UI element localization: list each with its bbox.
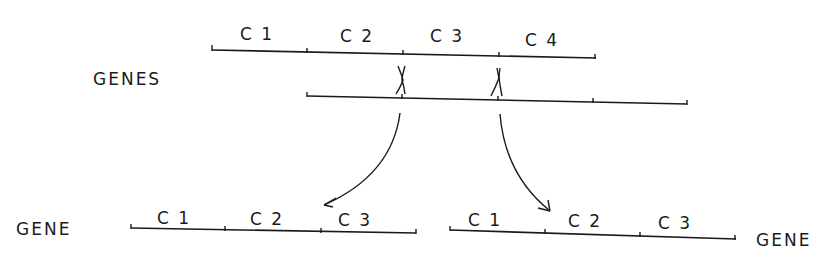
left-segment-c1: C 1 xyxy=(157,208,191,228)
gene-recombination-diagram: C 1 C 2 C 3 C 4 GENES GENE xyxy=(0,0,839,262)
segment-label-c1: C 1 xyxy=(240,24,274,44)
right-product-gene: C 1 C 2 C 3 GENE xyxy=(450,210,811,250)
segment-label-c4: C 4 xyxy=(525,30,559,50)
arrow-to-left-product xyxy=(324,113,400,207)
arrow-to-right-product xyxy=(500,114,550,211)
right-segment-c1: C 1 xyxy=(468,210,502,230)
crossover-mark-1 xyxy=(396,66,405,94)
left-segment-c3: C 3 xyxy=(338,210,372,230)
crossover-mark-2 xyxy=(491,68,502,96)
lower-gene-line xyxy=(307,96,687,104)
segment-label-c2: C 2 xyxy=(340,26,374,46)
genes-label: GENES xyxy=(93,69,161,89)
right-segment-c3: C 3 xyxy=(658,213,692,233)
curved-arrow-right-icon xyxy=(500,114,550,211)
left-gene-label: GENE xyxy=(16,219,71,239)
right-gene-label: GENE xyxy=(756,230,811,250)
curved-arrow-left-icon xyxy=(324,113,400,205)
right-segment-c2: C 2 xyxy=(568,211,602,231)
lower-gene xyxy=(307,92,687,105)
segment-label-c3: C 3 xyxy=(430,26,464,46)
right-gene-line xyxy=(450,230,736,239)
left-product-gene: GENE C 1 C 2 C 3 xyxy=(16,208,416,239)
upper-gene: C 1 C 2 C 3 C 4 xyxy=(212,24,596,59)
left-segment-c2: C 2 xyxy=(250,209,284,229)
upper-gene-line xyxy=(212,50,596,58)
